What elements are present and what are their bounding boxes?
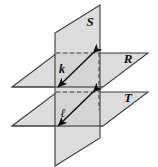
plane-s-label: S — [86, 14, 93, 29]
geometry-figure: k ℓ S R T — [0, 0, 158, 167]
line-l-label: ℓ — [60, 106, 65, 120]
three-planes-diagram: k ℓ S R T — [0, 0, 158, 167]
plane-r-label: R — [123, 51, 133, 66]
line-k-label: k — [59, 62, 65, 76]
plane-s-surface — [55, 5, 100, 166]
plane-t-label: T — [124, 90, 133, 105]
